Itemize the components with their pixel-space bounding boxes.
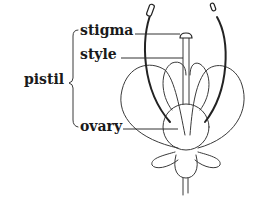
ovary-shape (163, 104, 209, 150)
stigma-head (180, 33, 192, 38)
anther-right (210, 3, 216, 12)
label-stigma: stigma (80, 23, 133, 37)
pistil-bracket (69, 30, 78, 127)
label-ovary: ovary (80, 119, 122, 133)
pistil-diagram: stigma style pistil ovary (0, 0, 257, 203)
petal-inner-right (190, 63, 209, 110)
sepal-left (152, 152, 178, 168)
petal-outer-right (190, 66, 244, 148)
label-pistil: pistil (24, 72, 64, 86)
receptacle (175, 155, 198, 178)
label-style: style (80, 47, 117, 61)
anther-left (146, 4, 155, 17)
sepal-right (195, 152, 220, 168)
